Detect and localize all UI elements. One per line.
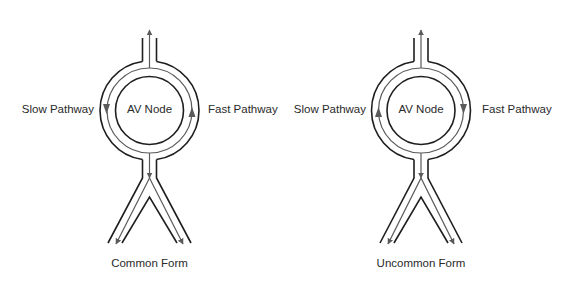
fast-pathway-label: Fast Pathway bbox=[482, 102, 552, 116]
slow-pathway-arrow-up bbox=[375, 107, 382, 117]
conduction-paths bbox=[379, 30, 464, 244]
caption-uncommon-form: Uncommon Form bbox=[377, 256, 466, 270]
av-node-diagram-uncommon bbox=[0, 0, 574, 284]
slow-pathway-label: Slow Pathway bbox=[294, 102, 366, 116]
av-node-label: AV Node bbox=[398, 102, 443, 116]
figure: Slow Pathway AV Node Fast Pathway Common… bbox=[0, 0, 574, 284]
fast-pathway-arrow-down bbox=[460, 104, 467, 114]
